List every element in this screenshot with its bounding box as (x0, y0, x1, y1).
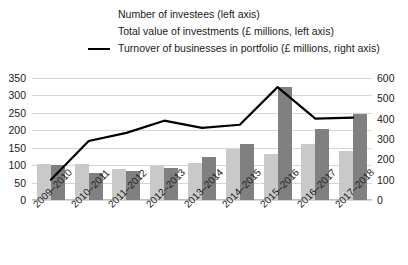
chart-container: Number of investees (left axis) Total va… (0, 0, 408, 265)
y-tick-right: 100 (377, 175, 407, 185)
y-tick-right: 600 (377, 73, 407, 83)
y-tick-left: 50 (0, 178, 26, 188)
y-tick-left: 0 (0, 195, 26, 205)
legend-line-marker (88, 48, 110, 50)
legend-item-turnover: Turnover of businesses in portfolio (£ m… (88, 40, 406, 57)
y-tick-left: 100 (0, 160, 26, 170)
y-tick-right: 400 (377, 114, 407, 124)
y-tick-left: 300 (0, 90, 26, 100)
y-tick-right: 500 (377, 93, 407, 103)
y-tick-right: 0 (377, 195, 407, 205)
legend-item-total-value: Total value of investments (£ millions, … (88, 23, 406, 40)
y-tick-left: 150 (0, 143, 26, 153)
y-tick-right: 200 (377, 154, 407, 164)
y-tick-left: 250 (0, 108, 26, 118)
legend-swatch-dark (88, 28, 110, 36)
legend-label-investees: Number of investees (left axis) (118, 9, 260, 20)
legend-item-investees: Number of investees (left axis) (88, 6, 406, 23)
legend-swatch-light (88, 11, 110, 19)
y-tick-right: 300 (377, 134, 407, 144)
y-tick-left: 350 (0, 73, 26, 83)
y-tick-left: 200 (0, 125, 26, 135)
chart-legend: Number of investees (left axis) Total va… (88, 6, 406, 57)
legend-label-turnover: Turnover of businesses in portfolio (£ m… (118, 43, 380, 54)
legend-label-total-value: Total value of investments (£ millions, … (118, 26, 334, 37)
x-axis-labels: 2009–20102010–20112011–20122012–20132013… (32, 200, 372, 262)
